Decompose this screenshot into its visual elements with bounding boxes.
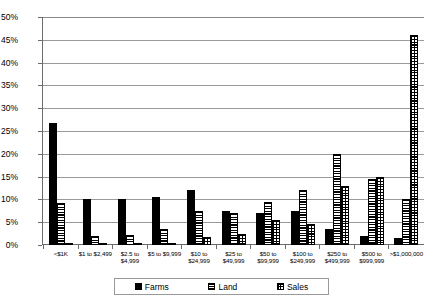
y-axis-tick-label: 50% [0,13,18,21]
bar-land [299,190,307,245]
x-axis-label: $5 to $9,999 [147,250,182,264]
bar-sales [272,220,280,245]
bar-land [368,179,376,245]
bar-farms [256,213,264,245]
bar-farms [49,123,57,245]
legend-item-land: Land [208,282,237,292]
legend-swatch-icon [208,283,215,290]
x-axis-label: $250 to $499,999 [320,250,355,264]
x-axis-tick-mark [44,245,79,249]
legend-item-farms: Farms [135,282,169,292]
x-axis-tick-mark [113,245,148,249]
x-axis-ticks [44,245,424,249]
x-axis-tick-mark [285,245,320,249]
legend-swatch-icon [135,283,142,290]
bar-farms [291,211,299,245]
x-axis-tick-mark [182,245,217,249]
bar-land [195,211,203,245]
bar-farms [394,238,402,245]
bar-farms [325,229,333,245]
bar-group [78,17,113,245]
x-axis-tick-mark [320,245,355,249]
x-axis-tick-mark [216,245,251,249]
bar-group [182,17,217,245]
bar-sales [376,177,384,245]
bar-land [230,213,238,245]
bar-land [160,229,168,245]
bar-group [44,17,79,245]
bar-farms [360,236,368,245]
x-axis-label: $50 to $99,999 [251,250,286,264]
y-axis-tick-label: 10% [0,195,18,203]
bar-sales [410,35,418,245]
bar-land [91,236,99,245]
x-axis-label: $2.5 to $4,999 [113,250,148,264]
y-axis-tick-label: 40% [0,59,18,67]
bar-group [320,17,355,245]
legend-label: Sales [287,282,308,292]
y-axis-tick-label: 30% [0,104,18,112]
bar-group [285,17,320,245]
legend-item-sales: Sales [277,282,308,292]
y-axis-tick-label: 0% [0,241,18,249]
bar-group [147,17,182,245]
bar-group [389,17,424,245]
legend-label: Farms [145,282,169,292]
bar-land [126,235,134,245]
bar-land [57,203,65,245]
bar-group [251,17,286,245]
chart-legend: FarmsLandSales [114,278,329,295]
bar-sales [203,237,211,245]
bar-land [402,199,410,245]
y-axis-tick-label: 5% [0,218,18,226]
x-axis-tick-mark [389,245,424,249]
bar-group [216,17,251,245]
x-axis-label: $100 to $249,999 [285,250,320,264]
x-axis-label: $10 to $24,999 [182,250,217,264]
bar-chart: 50%45%40%35%30%25%20%15%10%5%0% <$1K$1 t… [0,0,437,307]
x-axis-label: $25 to $49,999 [216,250,251,264]
y-axis-tick-label: 15% [0,173,18,181]
bar-farms [83,199,91,245]
y-axis-tick-label: 45% [0,36,18,44]
bar-farms [152,197,160,245]
bar-groups [44,17,424,245]
bar-sales [307,224,315,245]
bar-group [354,17,389,245]
legend-label: Land [218,282,237,292]
bar-farms [118,199,126,245]
x-axis-label: $1 to $2,499 [78,250,113,264]
bar-land [333,154,341,245]
x-axis-tick-mark [251,245,286,249]
bar-land [264,202,272,245]
x-axis-label: $500 to $999,999 [354,250,389,264]
bar-sales [238,234,246,245]
x-axis-label: >$1,000,000 [389,250,424,264]
y-axis-tick-label: 25% [0,127,18,135]
bar-farms [187,190,195,245]
x-axis-labels: <$1K$1 to $2,499$2.5 to $4,999$5 to $9,9… [44,250,424,264]
x-axis-tick-mark [78,245,113,249]
y-axis-tick-label: 35% [0,81,18,89]
x-axis-label: <$1K [44,250,79,264]
bar-sales [341,186,349,245]
legend-swatch-icon [277,283,284,290]
x-axis-tick-mark [147,245,182,249]
bar-farms [222,211,230,245]
y-axis-tick-mark [38,245,42,246]
y-axis-tick-label: 20% [0,150,18,158]
bar-group [113,17,148,245]
x-axis-tick-mark [354,245,389,249]
